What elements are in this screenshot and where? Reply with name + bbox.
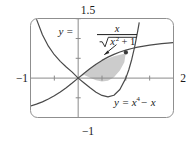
- curve1-label-radicand-exp: 2: [116, 35, 120, 42]
- axis-label-right: 2: [180, 72, 186, 84]
- curve1-label-lhs: y =: [57, 25, 73, 37]
- axis-label-bottom: −1: [82, 125, 94, 137]
- graph-figure: 1.5 −1 2 −1 y = x x 2 + 1 y = x 4 − x: [0, 0, 196, 141]
- axis-label-top: 1.5: [81, 4, 96, 16]
- intersection-point-marker: [124, 50, 128, 54]
- curve1-label-numerator: x: [114, 23, 120, 34]
- curve1-label-radicand-tail: + 1: [122, 36, 136, 47]
- plot-svg: 1.5 −1 2 −1 y = x x 2 + 1 y = x 4 − x: [0, 0, 196, 141]
- curve1-label-radicand-base: x: [109, 36, 115, 47]
- curve2-label-tail: − x: [141, 96, 156, 108]
- curve2-equation-label: y = x 4 − x: [113, 95, 156, 107]
- curve2-label-lhs: y = x: [113, 96, 137, 108]
- axis-label-left: −1: [16, 72, 28, 84]
